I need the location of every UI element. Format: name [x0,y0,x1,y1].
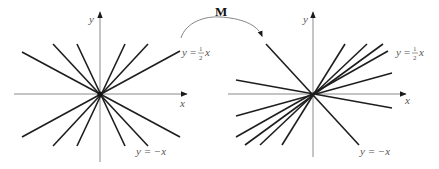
left-label-neg-x: y = −x [135,145,166,157]
linear-transformation-diagram: y x y = 1 2 x y = −x M y x y = 1 2 x y =… [0,0,439,169]
right-label-neg-x: y = −x [359,145,390,157]
svg-text:=: = [404,46,410,58]
svg-text:1: 1 [413,45,417,53]
left-y-axis-label: y [88,13,94,25]
left-origin-dot [97,91,102,96]
left-x-axis-label: x [179,97,185,109]
left-label-half-x: y = 1 2 x [181,45,210,62]
svg-text:y: y [181,46,187,58]
svg-text:=: = [190,46,196,58]
right-label-half-x: y = 1 2 x [395,45,424,62]
svg-text:1: 1 [199,45,203,53]
matrix-label-m: M [215,4,227,19]
right-panel: y x y = 1 2 x y = −x [228,12,424,157]
right-x-axis-label: x [404,94,410,106]
left-panel: y x y = 1 2 x y = −x [14,12,210,162]
svg-text:x: x [204,46,210,58]
transformation-arrow: M [181,4,262,38]
svg-text:2: 2 [199,54,203,62]
svg-text:y: y [395,46,401,58]
right-y-axis-label: y [302,13,308,25]
svg-text:x: x [418,46,424,58]
svg-text:2: 2 [413,54,417,62]
